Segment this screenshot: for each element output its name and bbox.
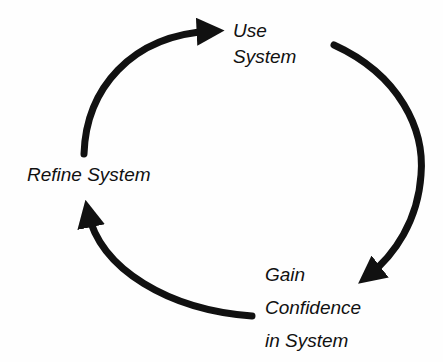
node-label-line: in System (265, 324, 361, 357)
node-use-system: Use System (233, 18, 296, 70)
node-label-line: Confidence (265, 291, 361, 324)
node-label-line: Use (233, 18, 296, 44)
node-refine-system: Refine System (27, 162, 151, 188)
arrow-use-to-gain (334, 45, 421, 276)
node-label-line: System (233, 44, 296, 70)
node-gain-confidence: Gain Confidence in System (265, 258, 361, 357)
node-label-line: Refine System (27, 162, 151, 188)
cycle-diagram: Use System Refine System Gain Confidence… (0, 0, 443, 362)
arrow-gain-to-refine (88, 212, 252, 316)
arrow-refine-to-use (84, 31, 212, 154)
node-label-line: Gain (265, 258, 361, 291)
